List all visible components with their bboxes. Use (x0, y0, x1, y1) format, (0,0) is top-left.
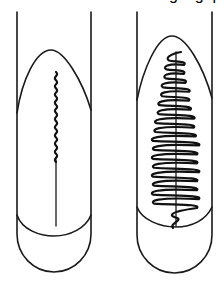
left-wavy-growth (55, 72, 57, 162)
test-tube-diagram: Slant tube with stab line and sparse wav… (0, 0, 224, 293)
left-agar-butt-line (17, 215, 91, 236)
right-tube-label: Slant tube with dense zigzag streak grow… (0, 0, 224, 3)
